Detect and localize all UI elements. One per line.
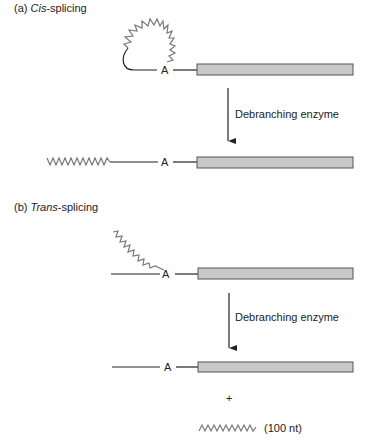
splicing-diagram: A Debranching enzyme A A Debranching enz… — [0, 0, 374, 446]
branch-point-a: A — [161, 64, 169, 76]
panel-b-branched: A — [111, 231, 353, 280]
enzyme-label-a: Debranching enzyme — [235, 108, 339, 120]
product-exon-box — [197, 157, 353, 168]
panel-a-product: A — [47, 156, 353, 168]
product-branch-point-a: A — [161, 156, 169, 168]
linear-intron-zigzag — [47, 158, 110, 165]
branched-intron-zigzag — [113, 231, 164, 270]
branch-point-b: A — [162, 268, 170, 280]
exon-box — [197, 64, 353, 75]
enzyme-label-b: Debranching enzyme — [235, 311, 339, 323]
b-exon-box — [198, 268, 353, 279]
released-fragment-label: (100 nt) — [264, 422, 302, 434]
b-product-exon-box — [198, 362, 353, 372]
panel-a-lariat: A — [123, 19, 353, 76]
panel-b-product: A — [112, 361, 353, 373]
released-fragment-zigzag — [199, 425, 256, 431]
plus-sign: + — [226, 392, 232, 404]
lariat-intron-line — [123, 48, 157, 70]
lariat-intron-zigzag — [124, 19, 175, 62]
product-branch-point-b: A — [164, 361, 172, 373]
